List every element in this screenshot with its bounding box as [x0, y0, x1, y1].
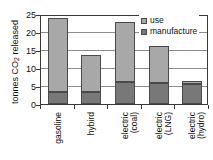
bar-segment-use: [81, 55, 101, 93]
legend-swatch-manufacture-icon: [141, 29, 147, 35]
x-axis-label-line: hybird: [87, 112, 96, 135]
bar-segment-manufacture: [182, 84, 202, 104]
x-axis-tick-mark: [107, 105, 108, 109]
bar-stack: [182, 81, 202, 104]
legend-item-use: use: [141, 15, 197, 26]
bar-stack: [81, 55, 101, 104]
y-axis-tick-label: 20: [16, 29, 36, 38]
bar-stack: [149, 46, 169, 104]
y-axis-tick-label: 15: [16, 47, 36, 56]
y-axis-tick-label: 25: [16, 11, 36, 20]
x-axis-label-line: gasoline: [54, 112, 63, 144]
legend-label-manufacture: manufacture: [150, 26, 197, 37]
bar-segment-manufacture: [81, 92, 101, 104]
x-axis-label-line: (LNG): [164, 112, 173, 139]
x-axis-label-line: (coal): [130, 112, 139, 139]
y-axis-tick-label: 5: [16, 83, 36, 92]
legend: use manufacture: [139, 14, 199, 38]
x-axis-label-hybird: hybird: [87, 112, 96, 135]
x-axis-label-electric-hydro: electric(hydro): [188, 112, 206, 139]
x-axis-tick-mark: [208, 105, 209, 109]
legend-item-manufacture: manufacture: [141, 26, 197, 37]
x-axis-label-gasoline: gasoline: [54, 112, 63, 144]
x-axis-tick-mark: [141, 105, 142, 109]
x-axis-label-electric-coal: electric(coal): [121, 112, 139, 139]
x-axis-label-line: (hydro): [197, 112, 206, 139]
bar-stack: [48, 18, 68, 104]
x-axis-label-electric-lng: electric(LNG): [155, 112, 173, 139]
y-axis-tick-label: 10: [16, 65, 36, 74]
y-axis-tick-label: 0: [16, 101, 36, 110]
y-axis-title-sub: 2: [13, 57, 20, 61]
bar-segment-use: [48, 18, 68, 93]
bar-segment-manufacture: [48, 92, 68, 104]
bar-segment-use: [115, 22, 135, 82]
x-axis-tick-mark: [40, 105, 41, 109]
bar-segment-use: [149, 46, 169, 82]
x-axis-tick-mark: [174, 105, 175, 109]
bar-stack: [115, 22, 135, 104]
y-axis-title: tonnes CO2 released: [10, 8, 22, 116]
bar-chart: tonnes CO2 released 0510152025 gasolineh…: [0, 0, 213, 160]
legend-label-use: use: [150, 15, 164, 26]
x-axis-tick-mark: [74, 105, 75, 109]
bar-segment-manufacture: [115, 82, 135, 104]
legend-swatch-use-icon: [141, 18, 147, 24]
bar-segment-manufacture: [149, 83, 169, 104]
